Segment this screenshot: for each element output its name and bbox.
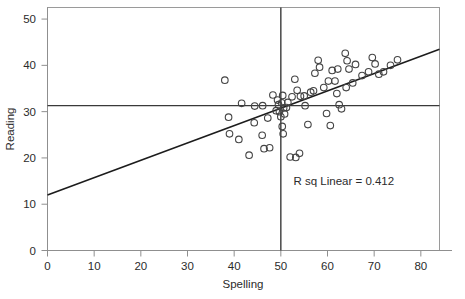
- x-tick-label: 70: [368, 260, 381, 272]
- x-tick-label: 80: [414, 260, 427, 272]
- y-tick-label: 30: [23, 106, 36, 118]
- x-axis-title: Spelling: [223, 278, 264, 290]
- x-axis-ticks: 01020304050607080: [44, 251, 427, 273]
- x-tick-label: 40: [228, 260, 241, 272]
- data-point: [296, 150, 303, 157]
- plot-canvas: 01020304050607080 01020304050 R sq Linea…: [0, 0, 465, 299]
- y-tick-label: 50: [23, 13, 36, 25]
- data-point: [292, 76, 299, 83]
- data-point: [352, 61, 359, 68]
- data-point: [327, 122, 334, 129]
- x-tick-label: 0: [44, 260, 50, 272]
- y-tick-label: 40: [23, 59, 36, 71]
- data-point: [320, 84, 327, 91]
- y-axis-ticks: 01020304050: [23, 13, 47, 256]
- x-tick-label: 60: [321, 260, 334, 272]
- y-tick-label: 20: [23, 152, 36, 164]
- y-tick-label: 10: [23, 198, 36, 210]
- data-point: [342, 50, 349, 57]
- y-axis-title: Reading: [4, 108, 16, 151]
- x-tick-label: 30: [181, 260, 194, 272]
- data-point: [251, 119, 258, 126]
- scatter-plot-figure: 01020304050607080 01020304050 R sq Linea…: [0, 0, 465, 299]
- reference-lines-group: [48, 8, 440, 251]
- data-point: [365, 69, 372, 76]
- data-point: [325, 78, 332, 85]
- data-point: [343, 84, 350, 91]
- data-point: [332, 78, 339, 85]
- data-point: [264, 115, 271, 122]
- data-point: [225, 114, 232, 121]
- data-point: [344, 57, 351, 64]
- data-point: [312, 70, 319, 77]
- x-tick-label: 50: [274, 260, 287, 272]
- data-point: [394, 57, 401, 64]
- data-point: [279, 123, 286, 130]
- data-point: [246, 152, 253, 159]
- data-point: [222, 77, 229, 84]
- data-point: [316, 64, 323, 71]
- y-tick-label: 0: [30, 245, 36, 257]
- data-point: [346, 66, 353, 73]
- plot-frame-border: [48, 8, 440, 251]
- data-point: [323, 110, 330, 117]
- x-tick-label: 10: [88, 260, 101, 272]
- data-point: [259, 132, 266, 139]
- data-point: [236, 136, 243, 143]
- data-point: [372, 61, 379, 68]
- data-point: [289, 94, 296, 101]
- data-point: [305, 121, 312, 128]
- annotations-group: R sq Linear = 0.412: [293, 175, 394, 187]
- data-point: [226, 131, 233, 138]
- data-point: [334, 90, 341, 97]
- x-tick-label: 20: [134, 260, 147, 272]
- r-squared-annotation: R sq Linear = 0.412: [293, 175, 394, 187]
- data-point: [315, 57, 322, 64]
- data-point: [369, 54, 376, 61]
